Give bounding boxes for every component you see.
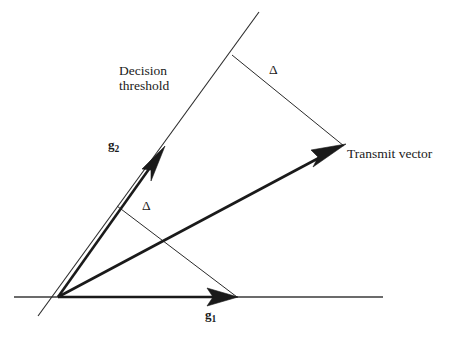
delta-segment-upper [232,55,344,146]
g2-vector-label: g2 [108,138,119,153]
vector-g1 [58,288,238,306]
delta-label-lower: Δ [142,198,151,213]
g2-vector-label-base: g [108,137,115,152]
decision-threshold-label-line1: Decision [119,63,169,78]
delta-label-upper: Δ [269,62,278,77]
vector-diagram-canvas: Decision threshold Transmit vector g2 g1… [0,0,453,337]
delta-segment-lower [117,206,237,297]
g1-vector-label: g1 [205,308,216,323]
g1-vector-label-subscript: 1 [212,314,217,324]
diagram-svg [0,0,453,337]
decision-threshold-label: Decision threshold [119,63,169,93]
vector-g2 [58,146,165,297]
decision-threshold-label-line2: threshold [119,78,169,93]
g1-vector-label-base: g [205,307,212,322]
vector-transmit [58,144,346,297]
transmit-vector-label: Transmit vector [347,146,432,161]
g2-vector-label-subscript: 2 [115,144,120,154]
